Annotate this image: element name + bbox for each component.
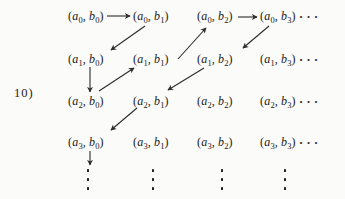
column-1-dot [152, 187, 155, 190]
row-0-continuation-ellipsis: ··· [299, 11, 322, 23]
pair-a3-b0: (a3, b0) [68, 135, 104, 149]
column-3-dot [284, 187, 287, 190]
arrow-(a2,b1)-to-(a3,b0) [111, 108, 137, 130]
pair-a1-b3: (a1, b3) [260, 52, 296, 66]
row-2-continuation-ellipsis: ··· [299, 96, 322, 108]
pair-a1-b0: (a1, b0) [68, 52, 104, 66]
column-2-dot [221, 187, 224, 190]
pair-a2-b2: (a2, b2) [197, 94, 233, 108]
pair-a3-b3: (a3, b3) [260, 135, 296, 149]
column-1-dot [152, 178, 155, 181]
pair-a1-b2: (a1, b2) [197, 52, 233, 66]
pair-a2-b0: (a2, b0) [68, 94, 104, 108]
column-2-dot [221, 178, 224, 181]
column-3-dot [284, 178, 287, 181]
row-3-continuation-ellipsis: ··· [299, 137, 322, 149]
column-0-dot [87, 169, 90, 172]
column-2-dot [221, 169, 224, 172]
arrow-(a0,b1)-to-(a1,b0) [111, 26, 145, 50]
pair-a3-b1: (a3, b1) [133, 135, 169, 149]
arrow-(a2,b0)-to-(a1,b1) [99, 68, 134, 91]
pair-a0-b3: (a0, b3) [260, 9, 296, 23]
pair-a1-b1: (a1, b1) [133, 52, 169, 66]
arrow-(a1,b2)-to-(a2,b1) [168, 68, 204, 90]
figure-label: 10) [14, 86, 34, 101]
pair-a2-b3: (a2, b3) [260, 94, 296, 108]
column-1-dot [152, 169, 155, 172]
pair-a2-b1: (a2, b1) [133, 94, 169, 108]
arrow-(a0,b3)-to-(a1,b2) [243, 26, 269, 48]
column-3-dot [284, 169, 287, 172]
pair-a0-b0: (a0, b0) [68, 9, 104, 23]
pair-a3-b2: (a3, b2) [197, 135, 233, 149]
column-0-dot [87, 187, 90, 190]
pair-a0-b1: (a0, b1) [133, 9, 169, 23]
row-1-continuation-ellipsis: ··· [299, 54, 322, 66]
enumeration-diagram: 10) (a0, b0)(a0, b1)(a0, b2)(a0, b3)···(… [0, 0, 345, 199]
column-0-dot [87, 178, 90, 181]
pair-a0-b2: (a0, b2) [197, 9, 233, 23]
